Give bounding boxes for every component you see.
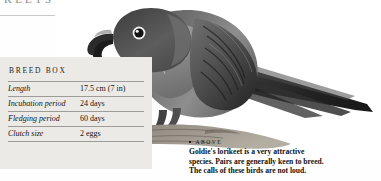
breed-box-table: Length 17.5 cm (7 in) Incubation period … xyxy=(8,81,144,142)
table-row: Length 17.5 cm (7 in) xyxy=(8,82,144,97)
caption-line-2: species. Pairs are generally keen to bre… xyxy=(189,157,354,167)
caption-heading-row: ABOVE xyxy=(189,139,354,145)
breed-box-title: BREED BOX xyxy=(9,66,67,75)
caption-heading: ABOVE xyxy=(195,139,222,145)
row-label: Incubation period xyxy=(8,97,80,112)
running-head: KEETS xyxy=(4,0,54,5)
bullet-icon xyxy=(189,141,191,143)
table-row: Clutch size 2 eggs xyxy=(8,127,144,142)
row-label: Clutch size xyxy=(8,127,80,142)
photo-caption: ABOVE Goldie's lorikeet is a very attrac… xyxy=(189,139,354,176)
row-value: 24 days xyxy=(80,97,144,112)
row-label: Length xyxy=(8,82,80,97)
table-row: Fledging period 60 days xyxy=(8,112,144,127)
caption-line-3: The calls of these birds are not loud. xyxy=(189,166,354,176)
table-row: Incubation period 24 days xyxy=(8,97,144,112)
caption-line-1: Goldie's lorikeet is a very attractive xyxy=(189,147,354,157)
row-value: 60 days xyxy=(80,112,144,127)
book-page: KEETS xyxy=(0,0,381,181)
caption-body: Goldie's lorikeet is a very attractive s… xyxy=(189,147,354,176)
row-value: 2 eggs xyxy=(80,127,144,142)
row-label: Fledging period xyxy=(8,112,80,127)
row-value: 17.5 cm (7 in) xyxy=(80,82,144,97)
breed-box-panel: BREED BOX Length 17.5 cm (7 in) Incubati… xyxy=(0,57,152,169)
